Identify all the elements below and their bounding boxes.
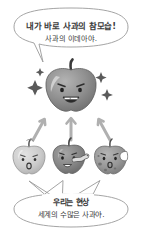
ideal-apple [46,60,96,112]
sparkle-icon [95,72,106,83]
real-apple-pale-surprised [13,139,45,174]
apple-eye-left [61,156,64,160]
apple-eye-left [103,157,106,160]
top-bubble-line-1: 내가 바로 사과의 참모습! [0,22,142,30]
arrow-group [33,118,110,140]
apple-eye-right [114,157,117,160]
sparkle-icon [101,89,113,101]
apple-stem [69,138,71,146]
bottom-bubble-line-2: 세계의 수많은 사과야. [0,211,142,218]
bottom-bubble-line-1: 우리는 현상 [0,199,142,207]
sparkle-icon [36,68,44,76]
real-apple-bitten [94,139,127,174]
apple-eye-left [60,88,64,93]
bubble-tail-join [42,194,94,195]
arrow-shaft-left [33,120,44,140]
top-bubble-line-2: 사과의 이데아야. [0,35,142,42]
apple-stem [29,139,31,147]
apple-body [46,69,96,112]
apple-eye-left [22,158,25,161]
cartoon-illustration: 내가 바로 사과의 참모습! 사과의 이데아야. 우리는 현상 세계의 수많은 … [0,0,142,234]
bruise-spot [98,163,102,166]
bruise-spot [104,169,107,171]
apple-stem [70,60,72,71]
arrow-shaft-right [99,120,110,140]
bruise-spot [114,168,117,170]
sparkle-group-right [95,72,113,101]
bite-mark [120,151,128,160]
apple-body [13,146,45,174]
apple-stem [110,139,112,147]
apple-eye-right [34,158,37,161]
apple-teeth [65,98,78,100]
real-apple-wormy [53,138,88,174]
bruise-spot [97,155,99,157]
sparkle-icon [27,80,43,96]
sparkle-group-left [27,68,44,96]
apple-eye-right [78,88,82,93]
worm-eye [87,155,88,156]
